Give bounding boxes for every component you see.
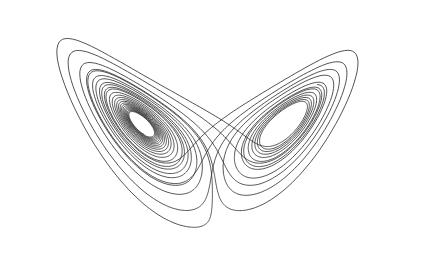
figure-canvas (0, 0, 426, 254)
background (0, 0, 426, 254)
lorenz-attractor-plot (0, 0, 426, 254)
